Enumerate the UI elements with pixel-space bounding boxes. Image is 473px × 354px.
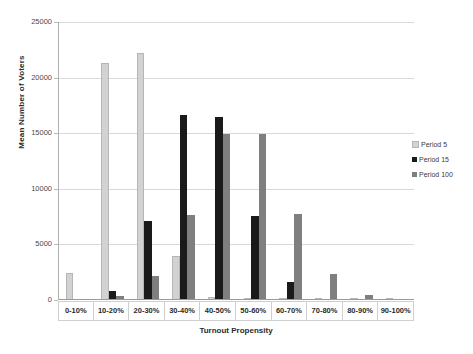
bar-chart: Mean Number of Voters 050001000015000200… xyxy=(0,0,473,354)
x-axis-label: 20-30% xyxy=(129,301,165,321)
legend-swatch-icon xyxy=(412,172,417,177)
y-tick-label: 10000 xyxy=(12,185,52,193)
bar xyxy=(187,215,195,300)
y-axis-ticks: 0500010000150002000025000 xyxy=(10,0,52,354)
x-axis-labels: 0-10%10-20%20-30%30-40%40-50%50-60%60-70… xyxy=(58,301,414,321)
y-tick-label: 25000 xyxy=(12,18,52,26)
bar-group xyxy=(379,22,415,300)
bar xyxy=(144,221,152,301)
bar-group xyxy=(166,22,202,300)
legend-label: Period 5 xyxy=(421,140,447,149)
bar xyxy=(330,274,338,300)
x-axis-label: 50-60% xyxy=(236,301,272,321)
x-axis-label: 10-20% xyxy=(94,301,130,321)
bar xyxy=(66,273,74,300)
x-axis-label: 70-80% xyxy=(307,301,343,321)
y-tick-label: 15000 xyxy=(12,129,52,137)
x-axis-label: 0-10% xyxy=(58,301,94,321)
legend-label: Period 15 xyxy=(419,155,449,164)
x-axis-label: 80-90% xyxy=(343,301,379,321)
x-axis-label: 40-50% xyxy=(200,301,236,321)
bar xyxy=(294,214,302,300)
bar-group xyxy=(59,22,95,300)
bar xyxy=(101,63,109,300)
legend-item[interactable]: Period 5 xyxy=(412,137,472,152)
bar-group xyxy=(273,22,309,300)
bar xyxy=(223,134,231,300)
x-axis-title: Turnout Propensity xyxy=(58,326,414,335)
x-axis-label: 90-100% xyxy=(378,301,414,321)
x-axis-label: 30-40% xyxy=(165,301,201,321)
legend-swatch-icon xyxy=(412,157,417,162)
bar-group xyxy=(95,22,131,300)
legend-item[interactable]: Period 15 xyxy=(412,152,472,167)
y-tick-label: 5000 xyxy=(12,240,52,248)
y-tick-label: 20000 xyxy=(12,74,52,82)
x-labels-bottom-rule xyxy=(58,320,414,321)
bar xyxy=(137,53,145,300)
bar xyxy=(259,134,267,300)
bar xyxy=(152,276,160,300)
bar xyxy=(287,282,295,300)
bar xyxy=(180,115,188,300)
bar-group xyxy=(308,22,344,300)
legend-label: Period 100 xyxy=(419,170,453,179)
bars-layer xyxy=(59,22,414,300)
bar-group xyxy=(201,22,237,300)
x-axis-label: 60-70% xyxy=(272,301,308,321)
x-axis-baseline xyxy=(59,299,414,300)
bar-group xyxy=(237,22,273,300)
legend-item[interactable]: Period 100 xyxy=(412,167,472,182)
y-tick-label: 0 xyxy=(12,296,52,304)
bar-group xyxy=(344,22,380,300)
bar xyxy=(172,256,180,300)
bar-group xyxy=(130,22,166,300)
plot-area xyxy=(58,22,414,300)
legend: Period 5Period 15Period 100 xyxy=(412,137,472,182)
bar xyxy=(215,117,223,300)
legend-swatch-icon xyxy=(412,141,419,148)
bar xyxy=(251,216,259,300)
